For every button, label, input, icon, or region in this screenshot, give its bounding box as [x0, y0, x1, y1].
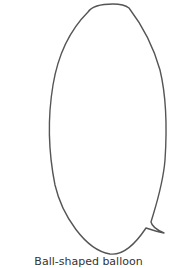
speech-bubble-outline [49, 4, 165, 254]
caption-text: Ball-shaped balloon [0, 256, 177, 268]
